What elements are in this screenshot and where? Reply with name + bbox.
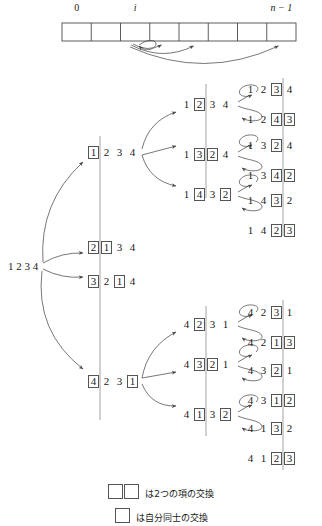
element: 4 bbox=[284, 139, 295, 152]
permutation-row: 1432 bbox=[180, 188, 232, 201]
element: 4 bbox=[245, 452, 256, 465]
element: 1 bbox=[284, 364, 295, 377]
permutation-row: 3214 bbox=[87, 275, 139, 288]
element: 1 bbox=[181, 98, 192, 111]
boxed-element: 2 bbox=[271, 364, 282, 377]
permutation-row: 4231 bbox=[244, 306, 296, 319]
legend-box-icon bbox=[108, 484, 123, 499]
element: 3 bbox=[114, 375, 125, 388]
element: 4 bbox=[127, 146, 138, 159]
boxed-element: 2 bbox=[271, 452, 282, 465]
element: 2 bbox=[101, 275, 112, 288]
boxed-element: 3 bbox=[284, 113, 295, 126]
legend-box-icon bbox=[115, 508, 130, 523]
element: 4 bbox=[258, 194, 269, 207]
boxed-element: 2 bbox=[207, 148, 218, 161]
permutation-row: 4132 bbox=[180, 408, 232, 421]
array-index-labels: 0in − 1 bbox=[0, 0, 322, 18]
boxed-element: 2 bbox=[271, 139, 282, 152]
diagram-canvas: 0in − 1 1 2 3 41234213432144231123413241… bbox=[0, 0, 322, 526]
permutation-row: 4231 bbox=[180, 318, 232, 331]
connector-arrows-layer bbox=[0, 0, 322, 526]
boxed-element: 1 bbox=[101, 241, 112, 254]
array-cells bbox=[62, 23, 296, 41]
array-index-label-2: n − 1 bbox=[271, 2, 293, 13]
element: 4 bbox=[181, 358, 192, 371]
permutation-row: 1324 bbox=[244, 139, 296, 152]
boxed-element: 1 bbox=[271, 336, 282, 349]
element: 4 bbox=[245, 364, 256, 377]
permutation-row: 4231 bbox=[87, 375, 139, 388]
permutation-row: 2134 bbox=[87, 241, 139, 254]
element: 1 bbox=[245, 139, 256, 152]
boxed-element: 2 bbox=[220, 408, 231, 421]
element: 4 bbox=[245, 336, 256, 349]
boxed-element: 2 bbox=[88, 241, 99, 254]
element: 2 bbox=[258, 83, 269, 96]
element: 2 bbox=[258, 113, 269, 126]
permutation-row: 1324 bbox=[180, 148, 232, 161]
element: 4 bbox=[181, 408, 192, 421]
element: 1 bbox=[181, 148, 192, 161]
element: 1 bbox=[284, 306, 295, 319]
boxed-element: 3 bbox=[271, 306, 282, 319]
array-index-label-1: i bbox=[134, 2, 137, 13]
element: 3 bbox=[258, 139, 269, 152]
boxed-element: 3 bbox=[284, 336, 295, 349]
permutation-row: 4321 bbox=[180, 358, 232, 371]
boxed-element: 2 bbox=[194, 98, 205, 111]
boxed-element: 3 bbox=[194, 148, 205, 161]
element: 4 bbox=[245, 422, 256, 435]
element: 4 bbox=[181, 318, 192, 331]
element: 2 bbox=[258, 306, 269, 319]
boxed-element: 2 bbox=[284, 169, 295, 182]
element: 1 bbox=[245, 194, 256, 207]
element: 3 bbox=[207, 318, 218, 331]
permutation-row: 1234 bbox=[180, 98, 232, 111]
permutation-row: 1423 bbox=[244, 224, 296, 237]
boxed-element: 3 bbox=[271, 194, 282, 207]
legend-swatch bbox=[108, 484, 139, 503]
root-permutation: 1 2 3 4 bbox=[8, 260, 38, 272]
element: 4 bbox=[220, 98, 231, 111]
element: 1 bbox=[220, 318, 231, 331]
boxed-element: 3 bbox=[284, 452, 295, 465]
element: 1 bbox=[245, 113, 256, 126]
boxed-element: 1 bbox=[194, 408, 205, 421]
element: 1 bbox=[181, 188, 192, 201]
element: 1 bbox=[258, 452, 269, 465]
element: 1 bbox=[245, 224, 256, 237]
legend-swatch bbox=[115, 508, 130, 526]
boxed-element: 1 bbox=[127, 375, 138, 388]
permutation-row: 4321 bbox=[244, 364, 296, 377]
swap-arrows bbox=[41, 40, 278, 430]
array-index-label-0: 0 bbox=[74, 2, 79, 13]
element: 2 bbox=[258, 336, 269, 349]
permutation-row: 4132 bbox=[244, 422, 296, 435]
element: 1 bbox=[220, 358, 231, 371]
element: 4 bbox=[258, 224, 269, 237]
element: 3 bbox=[207, 188, 218, 201]
element: 3 bbox=[114, 146, 125, 159]
permutation-row: 1342 bbox=[244, 169, 296, 182]
legend-row: は自分同士の交換 bbox=[0, 508, 322, 526]
element: 3 bbox=[258, 364, 269, 377]
permutation-row: 1234 bbox=[244, 83, 296, 96]
element: 4 bbox=[284, 83, 295, 96]
element: 4 bbox=[245, 394, 256, 407]
boxed-element: 4 bbox=[271, 169, 282, 182]
boxed-element: 3 bbox=[88, 275, 99, 288]
permutation-row: 1243 bbox=[244, 113, 296, 126]
permutation-row: 4312 bbox=[244, 394, 296, 407]
permutation-row: 4123 bbox=[244, 452, 296, 465]
element: 4 bbox=[127, 275, 138, 288]
boxed-element: 4 bbox=[88, 375, 99, 388]
boxed-element: 3 bbox=[284, 224, 295, 237]
element: 4 bbox=[127, 241, 138, 254]
permutation-row: 1432 bbox=[244, 194, 296, 207]
element: 4 bbox=[220, 148, 231, 161]
boxed-element: 2 bbox=[194, 318, 205, 331]
element: 3 bbox=[114, 241, 125, 254]
boxed-element: 2 bbox=[220, 188, 231, 201]
element: 1 bbox=[258, 422, 269, 435]
